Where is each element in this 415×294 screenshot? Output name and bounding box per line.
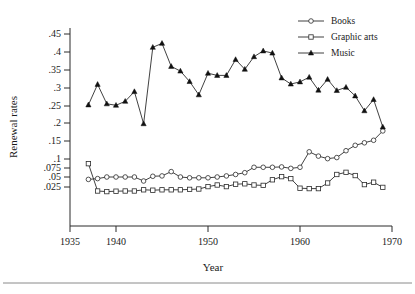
y-tick-label: .2 xyxy=(54,117,62,128)
data-point-marker xyxy=(362,141,367,146)
data-point-marker xyxy=(224,174,229,179)
data-point-marker xyxy=(205,70,210,75)
data-point-marker xyxy=(86,102,91,107)
data-point-marker xyxy=(104,101,109,106)
data-point-marker xyxy=(307,150,312,155)
data-point-marker xyxy=(316,154,321,159)
data-point-marker xyxy=(233,57,238,62)
data-point-marker xyxy=(243,170,248,175)
data-point-marker xyxy=(289,176,293,180)
data-point-marker xyxy=(353,143,358,148)
data-point-marker xyxy=(362,182,366,186)
data-point-marker xyxy=(86,161,90,165)
x-axis-title: Year xyxy=(203,261,224,273)
data-series-group xyxy=(86,41,386,194)
legend-marker-open-square xyxy=(309,35,313,39)
data-point-marker xyxy=(206,176,211,181)
data-point-marker xyxy=(132,89,137,94)
y-tick-label: .15 xyxy=(49,135,62,146)
data-point-marker xyxy=(343,84,348,89)
y-axis-ticks: .45.4.35.3.25.2.15.1.075.05.025 xyxy=(44,28,71,192)
data-point-marker xyxy=(371,138,376,143)
y-tick-label: .4 xyxy=(54,46,62,57)
x-axis-ticks: 19351940195019601970 xyxy=(60,226,402,247)
data-point-marker xyxy=(169,188,173,192)
data-point-marker xyxy=(252,183,256,187)
data-point-marker xyxy=(270,178,274,182)
data-point-marker xyxy=(371,97,376,102)
x-tick-label: 1970 xyxy=(382,236,402,247)
legend-item-graphic-arts[interactable]: Graphic arts xyxy=(298,32,378,42)
data-point-marker xyxy=(261,183,265,187)
data-point-marker xyxy=(233,182,237,186)
y-tick-label: .025 xyxy=(44,181,62,192)
data-point-marker xyxy=(297,79,302,84)
data-point-marker xyxy=(160,188,164,192)
renewal-rates-chart-figure: .45.4.35.3.25.2.15.1.075.05.025 19351940… xyxy=(0,0,415,294)
legend-label: Books xyxy=(331,16,356,26)
data-point-marker xyxy=(335,155,340,160)
data-point-marker xyxy=(123,189,127,193)
series-graphic-arts xyxy=(86,161,385,193)
x-tick-label: 1960 xyxy=(290,236,310,247)
x-tick-label: 1935 xyxy=(60,236,80,247)
y-axis-title: Renewal rates xyxy=(7,96,19,158)
data-point-marker xyxy=(141,179,146,184)
data-point-marker xyxy=(197,176,202,181)
data-point-marker xyxy=(344,170,348,174)
y-tick-label: .45 xyxy=(49,28,62,39)
data-point-marker xyxy=(86,177,91,182)
data-point-marker xyxy=(316,186,320,190)
legend-item-books[interactable]: Books xyxy=(298,16,356,26)
data-point-marker xyxy=(307,74,312,79)
data-point-marker xyxy=(197,187,201,191)
data-point-marker xyxy=(344,148,349,153)
data-point-marker xyxy=(215,183,219,187)
data-point-marker xyxy=(261,165,266,170)
data-point-marker xyxy=(105,189,109,193)
data-point-marker xyxy=(114,189,118,193)
chart-legend: BooksGraphic artsMusic xyxy=(298,16,378,58)
data-point-marker xyxy=(279,75,284,80)
data-point-marker xyxy=(206,184,210,188)
data-point-marker xyxy=(252,165,257,170)
data-point-marker xyxy=(381,185,385,189)
data-point-marker xyxy=(178,68,183,73)
data-point-marker xyxy=(160,174,165,179)
legend-item-music[interactable]: Music xyxy=(298,48,355,58)
data-point-marker xyxy=(95,189,99,193)
data-point-marker xyxy=(224,184,228,188)
data-point-marker xyxy=(215,175,220,180)
data-point-marker xyxy=(105,175,110,180)
data-point-marker xyxy=(279,165,284,170)
data-point-marker xyxy=(298,186,302,190)
data-point-marker xyxy=(307,186,311,190)
chart-canvas: .45.4.35.3.25.2.15.1.075.05.025 19351940… xyxy=(0,0,415,294)
legend-label: Music xyxy=(331,48,355,58)
x-tick-label: 1950 xyxy=(198,236,218,247)
data-point-marker xyxy=(132,189,136,193)
data-point-marker xyxy=(178,188,182,192)
data-point-marker xyxy=(151,188,155,192)
data-point-marker xyxy=(325,77,330,82)
data-point-marker xyxy=(353,173,357,177)
data-point-marker xyxy=(187,176,192,181)
y-tick-label: .3 xyxy=(54,82,62,93)
legend-marker-open-circle xyxy=(309,19,314,24)
data-point-marker xyxy=(233,172,238,177)
data-point-marker xyxy=(141,121,146,126)
data-point-marker xyxy=(132,175,137,180)
data-point-marker xyxy=(151,174,156,179)
y-tick-label: .25 xyxy=(49,100,62,111)
data-point-marker xyxy=(270,165,275,170)
data-point-marker xyxy=(261,48,266,53)
data-point-marker xyxy=(95,176,100,181)
y-tick-label: .35 xyxy=(49,64,62,75)
data-point-marker xyxy=(325,181,329,185)
data-point-marker xyxy=(243,182,247,186)
data-point-marker xyxy=(325,156,330,161)
data-point-marker xyxy=(298,165,303,170)
data-point-marker xyxy=(187,187,191,191)
data-point-marker xyxy=(178,175,183,180)
data-point-marker xyxy=(141,188,145,192)
